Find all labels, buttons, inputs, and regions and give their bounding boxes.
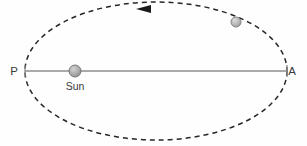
orbit-diagram-canvas: P A Sun (0, 0, 307, 146)
aphelion-label: A (288, 65, 296, 77)
orbit-diagram-figure: P A Sun (0, 0, 307, 146)
sun-body (69, 65, 81, 77)
perihelion-label: P (10, 65, 18, 77)
diagram-background (0, 0, 307, 146)
sun-label: Sun (66, 80, 85, 92)
planet-body (231, 17, 241, 27)
